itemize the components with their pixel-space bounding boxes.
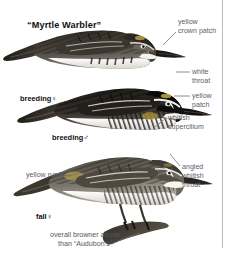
specimen-label-text: breeding	[52, 133, 83, 142]
callout-line: yellow	[178, 18, 216, 27]
caption-line: than “Audubon’s”	[24, 240, 146, 249]
specimen-label-breeding-female: breeding♀	[20, 94, 57, 103]
plate-caption: overall browner above than “Audubon’s”	[24, 231, 146, 250]
callout-line: throat	[182, 181, 204, 190]
callout-whitish-supercilium: whitish supercilium	[168, 114, 204, 132]
callout-line: white	[192, 68, 210, 77]
bird-breeding-female	[3, 28, 186, 69]
specimen-label-breeding-male: breeding♂	[52, 133, 89, 142]
callout-yellow-rump: yellow rump—	[26, 171, 71, 180]
callout-yellow-patch: yellow patch	[192, 92, 212, 110]
warbler-illustration	[0, 0, 235, 266]
caption-line: overall browner above	[24, 231, 146, 240]
callout-line: crown patch	[178, 27, 216, 36]
callout-line: yellow rump—	[26, 171, 71, 180]
female-symbol-icon: ♀	[51, 94, 57, 103]
callout-angled-whitish-throat: angled whitish throat	[182, 163, 204, 191]
male-symbol-icon: ♂	[83, 133, 89, 142]
callout-line: whitish	[182, 172, 204, 181]
specimen-label-text: fall	[36, 212, 47, 221]
callout-line: yellow	[192, 92, 212, 101]
callout-line: throat	[192, 77, 210, 86]
bird-field-guide-plate: “Myrtle Warbler” breeding♀ breeding♂ fal…	[0, 0, 235, 266]
callout-yellow-crown-patch: yellow crown patch	[178, 18, 216, 36]
specimen-label-fall-female: fall♀	[36, 212, 52, 221]
callout-line: whitish	[168, 114, 204, 123]
callout-line: patch	[192, 101, 212, 110]
specimen-label-text: breeding	[20, 94, 51, 103]
callout-line: angled	[182, 163, 204, 172]
callout-white-throat: white throat	[192, 68, 210, 86]
female-symbol-icon: ♀	[47, 212, 53, 221]
callout-line: supercilium	[168, 123, 204, 132]
page-title: “Myrtle Warbler”	[27, 20, 101, 30]
plate-divider-rule	[222, 0, 223, 248]
